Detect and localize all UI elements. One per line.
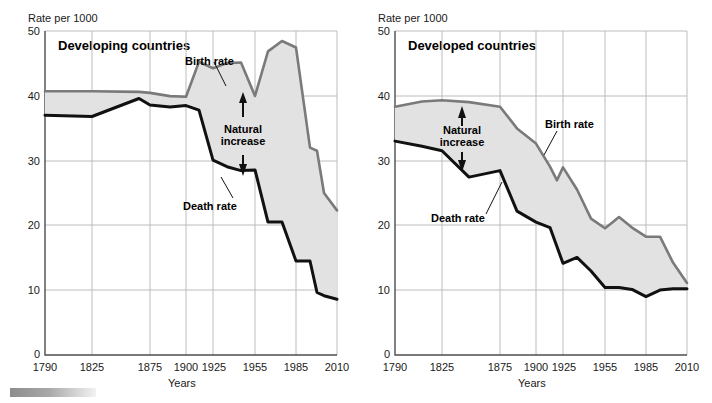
natural-increase-label-line2: increase [434,136,490,148]
birth-rate-leader-line [544,131,557,155]
death-rate-label: Death rate [431,212,485,224]
birth-rate-label: Birth rate [545,118,594,130]
chart-panel-developing: Rate per 1000 Developing countries 50 40… [0,0,356,403]
plot-svg-developed [356,0,712,403]
natural-increase-label-line2: increase [215,135,271,147]
chart-panel-developed: Rate per 1000 Developed countries 50 40 … [356,0,712,403]
natural-increase-label-line1: Natural [434,124,490,136]
plot-svg-developing [0,0,356,403]
death-rate-leader-line [221,177,233,198]
decorative-gradient-bar [10,388,96,397]
birth-rate-label: Birth rate [185,55,234,67]
death-rate-label: Death rate [183,200,237,212]
figure-root: Rate per 1000 Developing countries 50 40… [0,0,712,403]
natural-increase-label-line1: Natural [215,123,271,135]
